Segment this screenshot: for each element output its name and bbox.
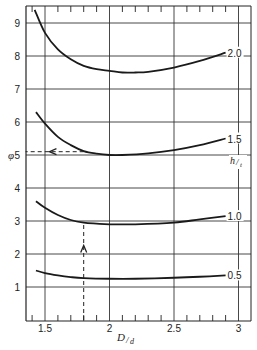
chart: 1.522.53123456789 2.01.51.00.5 φ D / d h… xyxy=(0,0,257,350)
x-axis-label-main: D xyxy=(116,331,125,343)
plot-frame xyxy=(26,6,251,321)
svg-text:1.0: 1.0 xyxy=(228,211,242,222)
y-tick-label: 6 xyxy=(14,117,20,128)
x-axis-label: D / d xyxy=(116,331,135,346)
y-tick-label: 7 xyxy=(14,84,20,95)
curves xyxy=(35,10,226,279)
grid xyxy=(26,6,251,321)
x-tick-label: 3 xyxy=(236,323,242,334)
curve-label-1-0: 1.0 xyxy=(227,210,244,222)
curve-label-2-0: 2.0 xyxy=(227,47,244,59)
curve-label-0-5: 0.5 xyxy=(227,269,244,281)
y-tick-label: 4 xyxy=(14,183,20,194)
annotations xyxy=(26,149,87,320)
y-axis-label: φ xyxy=(8,149,14,161)
svg-text:2.0: 2.0 xyxy=(228,48,242,59)
y-tick-label: 3 xyxy=(14,216,20,227)
x-tick-label: 1.5 xyxy=(38,323,52,334)
y-tick-label: 5 xyxy=(14,150,20,161)
x-tick-label: 2 xyxy=(107,323,113,334)
y-tick-label: 1 xyxy=(14,282,20,293)
curve-h-t-0-5 xyxy=(36,271,226,279)
x-axis-label-sub: d xyxy=(130,337,135,346)
svg-text:0.5: 0.5 xyxy=(228,270,242,281)
x-tick-label: 2.5 xyxy=(167,323,181,334)
y-tick-label: 8 xyxy=(14,51,20,62)
y-tick-label: 9 xyxy=(14,18,20,29)
curve-h-t-2-0 xyxy=(35,10,226,73)
legend-title-main: h xyxy=(230,155,235,166)
svg-text:1.5: 1.5 xyxy=(228,134,242,145)
legend-title: h / t xyxy=(229,155,247,169)
y-tick-label: 2 xyxy=(14,249,20,260)
curve-h-t-1-5 xyxy=(36,112,226,155)
curve-label-1-5: 1.5 xyxy=(227,133,244,145)
